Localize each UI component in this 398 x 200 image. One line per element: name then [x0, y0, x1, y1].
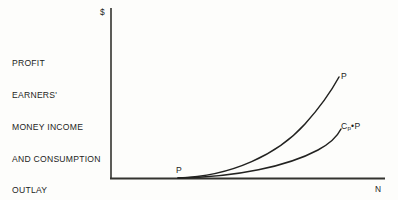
curve-label-cp-p: Cp•P: [341, 121, 360, 131]
y-axis-label: $: [100, 7, 105, 17]
figure-container: PROFIT EARNERS' MONEY INCOME AND CONSUMP…: [0, 0, 398, 200]
caption-line-1: PROFIT: [12, 58, 101, 69]
caption-line-2: EARNERS': [12, 90, 101, 101]
figure-caption: PROFIT EARNERS' MONEY INCOME AND CONSUMP…: [12, 37, 101, 200]
curve-cp-p: [178, 129, 341, 178]
curve-p: [178, 77, 339, 178]
caption-line-4: AND CONSUMPTION: [12, 154, 101, 165]
caption-line-3: MONEY INCOME: [12, 122, 101, 133]
caption-line-5: OUTLAY: [12, 185, 101, 196]
curve-label-p-upper: P: [341, 71, 347, 81]
curve-label-p-origin: P: [176, 165, 182, 175]
cp-p-suffix: P: [354, 121, 360, 131]
x-axis-label: N: [375, 184, 381, 194]
